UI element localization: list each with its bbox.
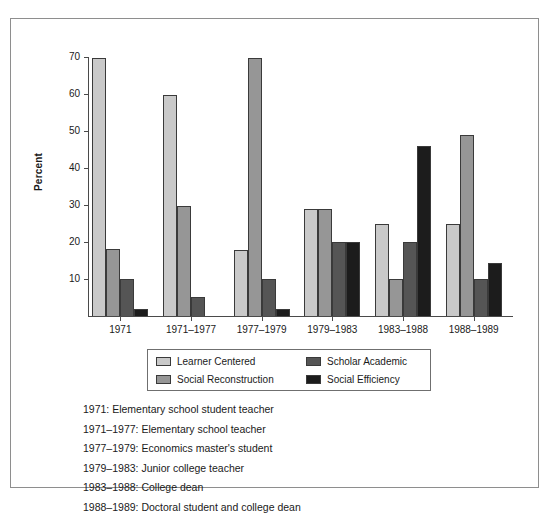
x-tick-label: 1971–1977: [166, 324, 216, 335]
x-tick-mark: [403, 316, 404, 321]
x-tick-label: 1988–1989: [449, 324, 499, 335]
bar-groups: [89, 37, 513, 316]
bar: [163, 95, 177, 316]
note-line: 1979–1983: Junior college teacher: [83, 459, 523, 479]
bar: [403, 242, 417, 316]
legend-swatch-icon: [306, 375, 321, 384]
legend-swatch-icon: [156, 357, 171, 366]
y-tick-label: 50: [56, 126, 80, 136]
y-tick-label: 20: [56, 237, 80, 247]
bar: [304, 209, 318, 316]
x-tick-mark: [262, 316, 263, 321]
legend-swatch-icon: [156, 375, 171, 384]
bar: [417, 146, 431, 316]
legend-item[interactable]: Scholar Academic: [306, 356, 440, 367]
cut-off-header-text: [12, 0, 539, 9]
bar: [120, 279, 134, 316]
figure-frame: Percent 10203040506070 19711971–19771977…: [10, 18, 539, 488]
bar-group: [234, 37, 290, 316]
x-tick-mark: [474, 316, 475, 321]
bar: [474, 279, 488, 316]
legend-label: Learner Centered: [177, 356, 255, 367]
legend-label: Social Efficiency: [327, 374, 400, 385]
y-axis-title: Percent: [33, 137, 51, 207]
note-line: 1977–1979: Economics master's student: [83, 439, 523, 459]
bar-group: [375, 37, 431, 316]
legend-item[interactable]: Social Efficiency: [306, 374, 440, 385]
y-tick-label: 70: [56, 52, 80, 62]
note-line: 1983–1988: College dean: [83, 478, 523, 498]
bar: [276, 309, 290, 316]
x-tick-mark: [332, 316, 333, 321]
y-tick-label: 30: [56, 200, 80, 210]
x-tick-mark: [191, 316, 192, 321]
bar: [106, 249, 120, 316]
bar-group: [446, 37, 502, 316]
x-tick-label: 1971: [109, 324, 131, 335]
bar-group: [92, 37, 148, 316]
chart-legend: Learner CenteredScholar AcademicSocial R…: [147, 349, 431, 391]
bar: [332, 242, 346, 316]
bar-group: [163, 37, 219, 316]
x-tick-label: 1983–1988: [378, 324, 428, 335]
y-axis-ticks: 10203040506070: [51, 39, 89, 319]
legend-label: Scholar Academic: [327, 356, 407, 367]
bar: [488, 263, 502, 316]
bar: [262, 279, 276, 316]
bar: [234, 250, 248, 316]
bar: [177, 206, 191, 316]
bar: [346, 242, 360, 316]
bar: [389, 279, 403, 316]
bar: [191, 297, 205, 316]
bar: [375, 224, 389, 317]
y-tick-label: 40: [56, 163, 80, 173]
bar: [134, 309, 148, 316]
note-line: 1971–1977: Elementary school teacher: [83, 420, 523, 440]
y-tick-label: 10: [56, 274, 80, 284]
bar: [460, 135, 474, 316]
legend-item[interactable]: Learner Centered: [156, 356, 306, 367]
plot-area: Percent 10203040506070 19711971–19771977…: [11, 19, 540, 319]
legend-item[interactable]: Social Reconstruction: [156, 374, 306, 385]
bar: [248, 58, 262, 316]
x-axis-line: [88, 316, 513, 317]
x-tick-label: 1979–1983: [307, 324, 357, 335]
figure-notes: 1971: Elementary school student teacher1…: [83, 400, 523, 517]
legend-swatch-icon: [306, 357, 321, 366]
y-tick-label: 60: [56, 89, 80, 99]
bar: [318, 209, 332, 316]
bar: [92, 58, 106, 316]
bar-group: [304, 37, 360, 316]
legend-label: Social Reconstruction: [177, 374, 274, 385]
x-tick-mark: [120, 316, 121, 321]
note-line: 1971: Elementary school student teacher: [83, 400, 523, 420]
bar: [446, 224, 460, 317]
x-tick-label: 1977–1979: [237, 324, 287, 335]
note-line: 1988–1989: Doctoral student and college …: [83, 498, 523, 517]
